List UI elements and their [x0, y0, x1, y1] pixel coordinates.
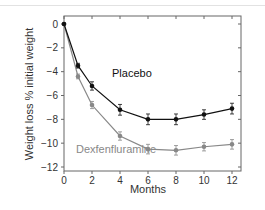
data-point [76, 74, 81, 79]
data-point [174, 117, 179, 122]
data-point [118, 108, 123, 113]
data-point [118, 134, 123, 139]
x-tick-label: 12 [226, 175, 238, 186]
y-axis-title: Weight loss % initial weight [23, 28, 35, 160]
series-label-placebo: Placebo [112, 67, 152, 79]
x-axis-title: Months [130, 183, 167, 195]
data-point [76, 63, 81, 68]
axis-ticks: 0246810120−2−4−6−8−10−12 [41, 16, 241, 186]
series-label-dexfenfluramine: Dexfenfluramine [76, 143, 156, 155]
y-tick-label: −8 [47, 114, 59, 125]
data-point [174, 148, 179, 153]
data-point [230, 106, 235, 111]
series-line-dexfenfluramine [64, 24, 232, 150]
data-point [90, 103, 95, 108]
y-tick-label: −2 [47, 42, 59, 53]
x-tick-label: 0 [61, 175, 67, 186]
data-point [202, 112, 207, 117]
data-point [146, 117, 151, 122]
y-tick-label: −12 [41, 162, 58, 173]
y-tick-label: 0 [52, 19, 58, 30]
weight-loss-chart: 0246810120−2−4−6−8−10−12 Months Weight l… [0, 0, 265, 210]
y-tick-label: −10 [41, 138, 58, 149]
x-tick-label: 10 [198, 175, 210, 186]
x-tick-label: 2 [89, 175, 95, 186]
data-point [230, 142, 235, 147]
x-tick-label: 8 [173, 175, 179, 186]
data-point [202, 144, 207, 149]
y-tick-label: −6 [47, 90, 59, 101]
series-layer [62, 22, 235, 155]
x-tick-label: 4 [117, 175, 123, 186]
data-point [90, 84, 95, 89]
data-point [62, 22, 67, 27]
y-tick-label: −4 [47, 66, 59, 77]
